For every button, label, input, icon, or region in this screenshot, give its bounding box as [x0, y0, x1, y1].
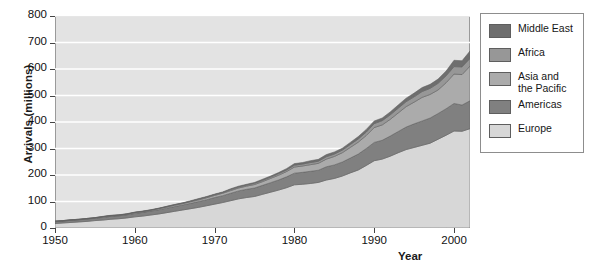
x-tick-label: 1990 — [361, 234, 387, 246]
y-tick-mark — [50, 16, 55, 17]
legend-label: Middle East — [518, 23, 573, 35]
legend-item: Africa — [489, 47, 579, 66]
y-tick-label: 100 — [7, 194, 47, 206]
legend-item: Europe — [489, 123, 579, 142]
x-tick-label: 1950 — [42, 234, 68, 246]
y-tick-label: 700 — [7, 35, 47, 47]
y-tick-mark — [50, 149, 55, 150]
x-axis-title: Year — [398, 250, 422, 262]
legend-item: Asia and the Pacific — [489, 71, 579, 94]
x-tick-label: 2000 — [441, 234, 467, 246]
x-tick-label: 1980 — [282, 234, 308, 246]
x-tick-mark — [215, 228, 216, 233]
x-tick-mark — [135, 228, 136, 233]
y-tick-label: 400 — [7, 114, 47, 126]
y-tick-label: 300 — [7, 141, 47, 153]
y-tick-label: 0 — [7, 220, 47, 232]
x-tick-mark — [55, 228, 56, 233]
legend-swatch — [489, 72, 511, 86]
y-tick-mark — [50, 43, 55, 44]
legend-swatch — [489, 124, 511, 138]
legend-swatch — [489, 100, 511, 114]
legend-swatch — [489, 24, 511, 38]
y-tick-mark — [50, 122, 55, 123]
legend-item: Middle East — [489, 23, 579, 42]
legend: Middle EastAfricaAsia and the PacificAme… — [480, 13, 584, 153]
stacked-area-series — [55, 16, 470, 228]
x-tick-label: 1970 — [202, 234, 228, 246]
chart-figure: Arrivals (millions) 01002003004005006007… — [0, 0, 592, 273]
y-tick-label: 600 — [7, 61, 47, 73]
y-tick-label: 500 — [7, 88, 47, 100]
y-tick-mark — [50, 202, 55, 203]
y-tick-mark — [50, 175, 55, 176]
x-tick-mark — [294, 228, 295, 233]
legend-swatch — [489, 48, 511, 62]
legend-label: Asia and the Pacific — [518, 71, 566, 94]
legend-label: Europe — [518, 123, 552, 135]
y-tick-mark — [50, 96, 55, 97]
legend-item: Americas — [489, 99, 579, 118]
x-tick-label: 1960 — [122, 234, 148, 246]
plot-area — [55, 16, 470, 228]
y-tick-mark — [50, 69, 55, 70]
legend-label: Americas — [518, 99, 562, 111]
y-tick-label: 800 — [7, 8, 47, 20]
legend-label: Africa — [518, 47, 545, 59]
x-tick-mark — [454, 228, 455, 233]
x-tick-mark — [374, 228, 375, 233]
y-tick-label: 200 — [7, 167, 47, 179]
